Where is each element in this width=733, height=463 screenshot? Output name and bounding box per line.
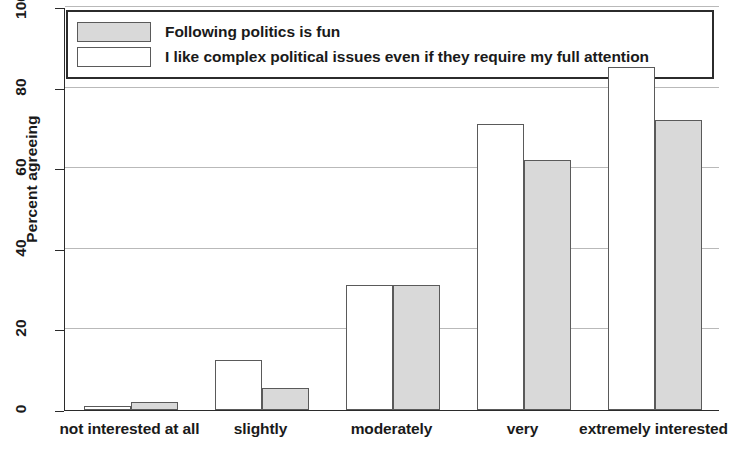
y-tick-mark-60 [55, 169, 64, 170]
gridline-100 [65, 6, 719, 7]
y-tick-label-60: 60 [12, 146, 30, 188]
legend-swatch-icon [77, 22, 151, 42]
bar [393, 285, 440, 410]
bar [215, 360, 262, 410]
legend-item: Following politics is fun [77, 19, 703, 44]
bar [477, 124, 524, 410]
legend-swatch-icon [77, 47, 151, 67]
y-tick-mark-0 [55, 411, 64, 412]
legend-label: Following politics is fun [165, 23, 340, 41]
bar [524, 160, 571, 410]
y-tick-mark-20 [55, 330, 64, 331]
legend-item: I like complex political issues even if … [77, 44, 703, 69]
bar [262, 388, 309, 410]
y-tick-label-80: 80 [12, 66, 30, 108]
y-tick-label-20: 20 [12, 307, 30, 349]
y-tick-label-100: 100 [12, 0, 30, 27]
bar [608, 67, 655, 410]
y-tick-mark-100 [55, 8, 64, 9]
legend-label: I like complex political issues even if … [165, 48, 649, 66]
bar [131, 402, 178, 410]
bar [655, 120, 702, 410]
bar [84, 406, 131, 410]
y-tick-label-40: 40 [12, 227, 30, 269]
y-tick-mark-80 [55, 89, 64, 90]
x-tick-label: extremely interested [544, 420, 733, 438]
bar [346, 285, 393, 410]
bar-chart: Percent agreeing 020406080100 not intere… [0, 0, 733, 463]
y-tick-mark-40 [55, 250, 64, 251]
